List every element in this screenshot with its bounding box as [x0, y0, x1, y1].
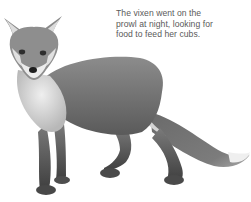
fox-left-eye [19, 50, 25, 55]
story-caption: The vixen went on the prowl at night, lo… [116, 8, 251, 40]
caption-line-2: prowl at night, looking for [116, 19, 251, 30]
fox-front-legs [36, 124, 70, 195]
caption-line-1: The vixen went on the [116, 8, 251, 19]
storybook-page: The vixen went on the prowl at night, lo… [0, 0, 251, 202]
fox-right-eye [40, 51, 46, 56]
fox-nose [29, 67, 37, 73]
fox-head [4, 16, 62, 80]
caption-line-3: food to feed her cubs. [116, 29, 251, 40]
